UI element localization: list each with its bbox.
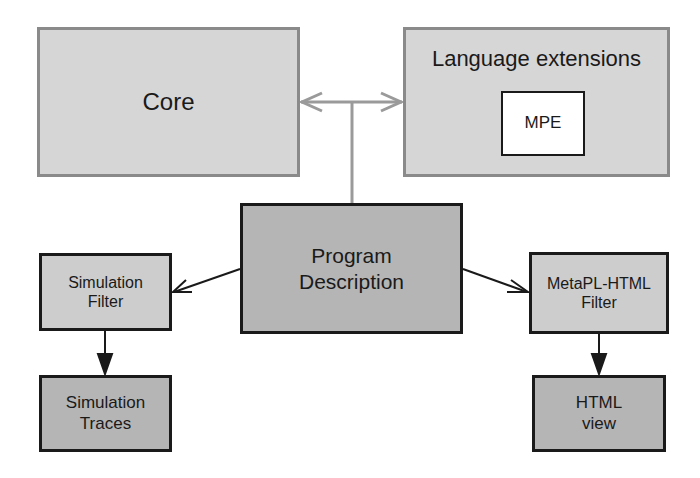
html-view-node: HTML view <box>532 375 666 452</box>
html-view-label: HTML view <box>576 393 622 434</box>
simulation-filter-node: Simulation Filter <box>39 253 172 331</box>
arrowhead-filled-icon <box>98 354 112 374</box>
language-extensions-node: Language extensions MPE <box>403 27 670 177</box>
program-description-node: Program Description <box>240 203 463 334</box>
language-extensions-label: Language extensions <box>406 46 667 72</box>
program-description-label: Program Description <box>299 243 404 293</box>
progdesc-to-simfilter-line <box>174 269 240 292</box>
metapl-html-filter-label: MetaPL-HTML Filter <box>547 274 651 312</box>
core-label: Core <box>142 88 194 117</box>
mpe-node: MPE <box>501 91 585 156</box>
core-node: Core <box>37 27 300 177</box>
simulation-filter-label: Simulation Filter <box>68 273 143 311</box>
simulation-traces-label: Simulation Traces <box>66 393 145 434</box>
progdesc-to-metafilter-line <box>463 269 527 292</box>
mpe-label: MPE <box>525 113 562 133</box>
arrowhead-filled-icon <box>592 354 606 374</box>
simulation-traces-node: Simulation Traces <box>39 375 172 452</box>
core-langext-connector <box>301 93 402 203</box>
metapl-html-filter-node: MetaPL-HTML Filter <box>529 252 669 334</box>
